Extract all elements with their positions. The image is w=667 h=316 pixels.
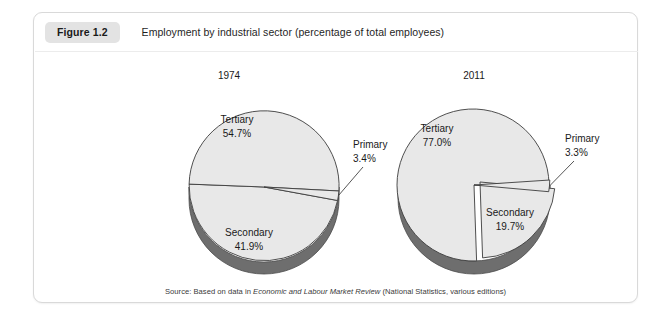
chart2-tertiary-value: 77.0% — [423, 137, 451, 148]
figure-header: Figure 1.2 Employment by industrial sect… — [34, 13, 637, 51]
chart1-pie-slices — [189, 111, 339, 261]
source-prefix: Source: Based on data in — [165, 287, 253, 296]
chart1-slice-tertiary — [189, 111, 339, 191]
source-publication: Economic and Labour Market Review — [253, 287, 380, 296]
chart1-secondary-label: Secondary — [225, 227, 273, 238]
chart1-secondary-value: 41.9% — [235, 241, 263, 252]
chart2-year-label: 2011 — [463, 70, 485, 81]
chart2-primary-value: 3.3% — [565, 147, 588, 158]
chart2-primary-leader — [550, 161, 574, 186]
source-note: Source: Based on data in Economic and La… — [34, 287, 637, 296]
chart2-secondary-label: Secondary — [486, 207, 534, 218]
pie-chart-2011: 2011 Tertiary 77.0% Secondary 19.7% Prim… — [324, 52, 624, 304]
charts-area: 1974 Tertiary 54.7% Secondary 41.9% Prim… — [34, 52, 637, 304]
chart1-tertiary-value: 54.7% — [223, 128, 251, 139]
chart2-slice-secondary — [480, 182, 555, 258]
chart1-tertiary-label: Tertiary — [221, 114, 254, 125]
source-suffix: (National Statistics, various editions) — [380, 287, 506, 296]
chart1-year-label: 1974 — [218, 70, 241, 81]
chart2-primary-label: Primary — [565, 133, 599, 144]
figure-title: Employment by industrial sector (percent… — [142, 26, 445, 38]
figure-number-badge: Figure 1.2 — [45, 22, 120, 43]
chart2-tertiary-label: Tertiary — [421, 123, 454, 134]
figure-container: Figure 1.2 Employment by industrial sect… — [33, 12, 638, 303]
chart2-secondary-value: 19.7% — [496, 221, 524, 232]
